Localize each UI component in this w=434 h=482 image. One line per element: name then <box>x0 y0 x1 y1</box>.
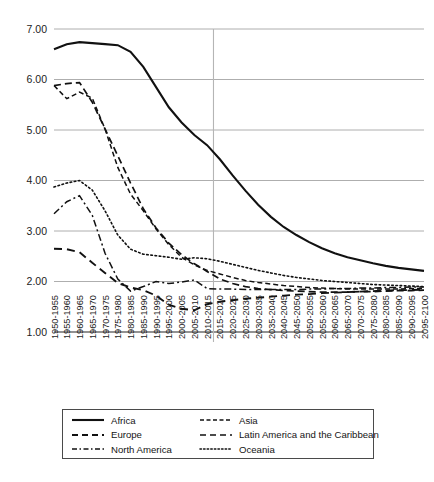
x-axis-tick-label: 1990-1995 <box>152 295 162 339</box>
dash-dot-line-key <box>71 444 105 454</box>
y-axis-tick-label: 7.00 <box>27 23 48 35</box>
legend-label: Africa <box>111 416 136 426</box>
x-axis-tick-label: 1975-1980 <box>113 295 123 339</box>
x-axis-tick-label: 2065-2070 <box>343 295 353 339</box>
x-axis-tick-label: 1965-1970 <box>88 295 98 339</box>
dash-line-key <box>199 430 233 440</box>
y-axis-tick-label: 6.00 <box>27 73 48 85</box>
y-axis-tick-label: 3.00 <box>27 225 48 237</box>
x-axis-tick-label: 2015-2020 <box>215 295 225 339</box>
series-line-north-america <box>54 196 424 291</box>
x-axis-tick-label: 2040-2045 <box>279 295 289 339</box>
legend-entry: Oceania <box>199 444 379 454</box>
legend-label: Oceania <box>239 445 275 455</box>
legend-entry: Europe <box>71 430 199 440</box>
x-axis-tick-label: 1960-1965 <box>75 295 85 339</box>
legend-label: Latin America and the Caribbean <box>239 430 379 440</box>
legend-label: North America <box>111 445 172 455</box>
y-axis-tick-label: 5.00 <box>27 124 48 136</box>
x-axis-tick-label: 2020-2025 <box>228 295 238 339</box>
series-line-latin-america-and-the-caribbean <box>54 83 424 293</box>
legend-entry: Latin America and the Caribbean <box>199 430 379 440</box>
solid-line-key <box>71 415 105 425</box>
series-line-asia <box>54 86 424 290</box>
x-axis-tick-label: 1985-1990 <box>139 295 149 339</box>
series-line-oceania <box>54 181 424 287</box>
x-axis-tick-label: 2075-2080 <box>369 295 379 339</box>
figure-container: 1.002.003.004.005.006.007.001950-1955195… <box>0 0 434 482</box>
legend-label: Europe <box>111 430 142 440</box>
y-axis-tick-label: 4.00 <box>27 174 48 186</box>
legend-entry: Asia <box>199 415 379 425</box>
x-axis-tick-label: 2045-2050 <box>292 295 302 339</box>
x-axis-tick-label: 1995-2000 <box>164 295 174 339</box>
x-axis-tick-label: 1970-1975 <box>101 295 111 339</box>
long-dash-line-key <box>71 430 105 440</box>
x-axis-tick-label: 2090-2095 <box>407 295 417 339</box>
legend-entry: North America <box>71 444 199 454</box>
x-axis-tick-label: 1950-1955 <box>50 295 60 339</box>
x-axis-tick-label: 2010-2015 <box>203 295 213 339</box>
legend-label: Asia <box>239 416 258 426</box>
y-axis-tick-label: 2.00 <box>27 275 48 287</box>
x-axis-tick-label: 2080-2085 <box>381 295 391 339</box>
x-axis-tick-label: 2005-2010 <box>190 295 200 339</box>
dotted-line-key <box>199 444 233 454</box>
x-axis-tick-label: 2070-2075 <box>356 295 366 339</box>
legend-entry: Africa <box>71 415 199 425</box>
x-axis-tick-label: 2000-2005 <box>177 295 187 339</box>
x-axis-tick-label: 2025-2030 <box>241 295 251 339</box>
x-axis-tick-label: 2035-2040 <box>267 295 277 339</box>
x-axis-tick-label: 2050-2055 <box>305 295 315 339</box>
x-axis-tick-label: 1955-1960 <box>62 295 72 339</box>
x-axis-tick-label: 1980-1985 <box>126 295 136 339</box>
short-dash-line-key <box>199 415 233 425</box>
x-axis-tick-label: 2055-2060 <box>318 295 328 339</box>
x-axis-tick-label: 2095-2100 <box>420 295 430 339</box>
x-axis-tick-label: 2060-2065 <box>330 295 340 339</box>
y-axis-tick-label: 1.00 <box>27 326 48 338</box>
legend-grid: AfricaAsiaEuropeLatin America and the Ca… <box>71 413 365 457</box>
x-axis-tick-label: 2085-2090 <box>394 295 404 339</box>
x-axis-tick-label: 2030-2035 <box>254 295 264 339</box>
series-line-africa <box>54 42 424 271</box>
chart-legend: AfricaAsiaEuropeLatin America and the Ca… <box>62 409 374 459</box>
